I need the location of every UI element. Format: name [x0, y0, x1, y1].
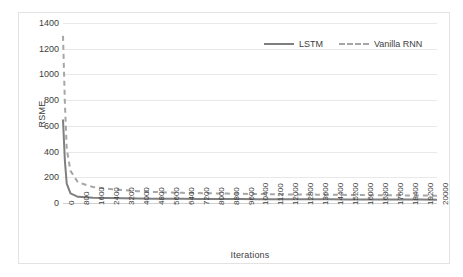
x-tick-label: 15200 — [351, 183, 360, 205]
x-tick-label: 4800 — [157, 187, 166, 205]
legend-item-lstm[interactable]: LSTM — [264, 39, 323, 49]
x-tick-label: 7200 — [202, 187, 211, 205]
x-tick-label: 11200 — [276, 183, 285, 205]
x-tick-label: 16800 — [381, 183, 390, 205]
y-tick-label: 400 — [19, 147, 59, 157]
x-tick-label: 8000 — [217, 187, 226, 205]
x-tick-label: 6400 — [187, 187, 196, 205]
x-tick-label: 10400 — [261, 183, 270, 205]
legend-label: LSTM — [299, 39, 323, 49]
x-tick-label: 20000 — [441, 183, 450, 205]
x-tick-label: 16000 — [366, 183, 375, 205]
x-tick-label: 800 — [82, 192, 91, 205]
y-tick-label: 800 — [19, 95, 59, 105]
x-tick-label: 3200 — [127, 187, 136, 205]
chart-legend: LSTMVanilla RNN — [264, 39, 422, 49]
x-tick-label: 9600 — [247, 187, 256, 205]
y-axis-tick-labels: 0200400600800100012001400 — [19, 23, 59, 203]
x-tick-label: 17600 — [396, 183, 405, 205]
x-tick-label: 2400 — [112, 187, 121, 205]
x-tick-label: 12000 — [291, 183, 300, 205]
x-tick-label: 19200 — [426, 183, 435, 205]
x-axis-tick-labels: 0800160024003200400048005600640072008000… — [63, 205, 437, 249]
legend-label: Vanilla RNN — [374, 39, 422, 49]
x-tick-label: 5600 — [172, 187, 181, 205]
x-tick-label: 0 — [67, 201, 76, 205]
x-tick-label: 18400 — [411, 183, 420, 205]
y-tick-label: 1400 — [19, 18, 59, 28]
y-tick-label: 1000 — [19, 69, 59, 79]
x-tick-label: 14400 — [336, 183, 345, 205]
series-lines — [63, 23, 437, 203]
x-tick-label: 13600 — [321, 183, 330, 205]
series-line-vanilla-rnn — [63, 36, 437, 196]
legend-swatch-icon — [339, 43, 369, 45]
legend-swatch-icon — [264, 43, 294, 45]
x-tick-label: 4000 — [142, 187, 151, 205]
x-tick-label: 8800 — [232, 187, 241, 205]
x-axis-title: Iterations — [63, 250, 437, 260]
x-tick-label: 12800 — [306, 183, 315, 205]
x-tick-label: 1600 — [97, 187, 106, 205]
chart-figure: RSME 0200400600800100012001400 080016002… — [18, 12, 450, 264]
y-tick-label: 600 — [19, 121, 59, 131]
plot-area — [63, 23, 437, 203]
y-tick-label: 200 — [19, 172, 59, 182]
y-tick-label: 0 — [19, 198, 59, 208]
legend-item-vanilla-rnn[interactable]: Vanilla RNN — [339, 39, 422, 49]
y-tick-label: 1200 — [19, 44, 59, 54]
